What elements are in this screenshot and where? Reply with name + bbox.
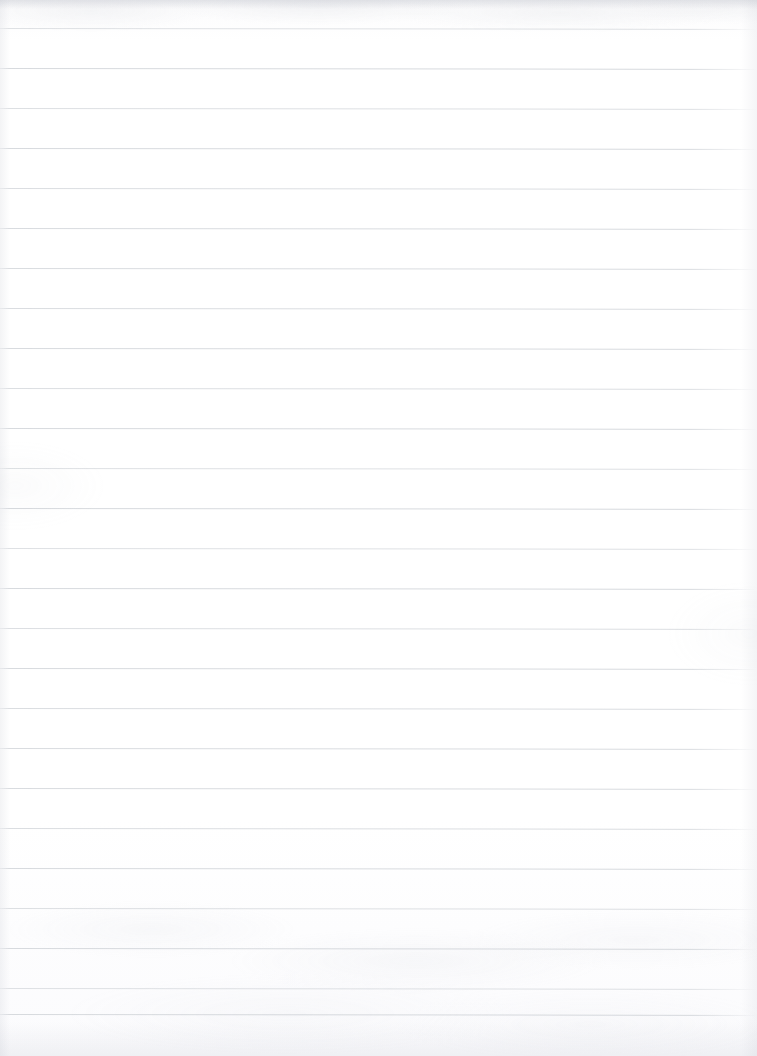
scanned-page	[0, 0, 757, 1056]
writing-area[interactable]	[0, 0, 757, 1056]
